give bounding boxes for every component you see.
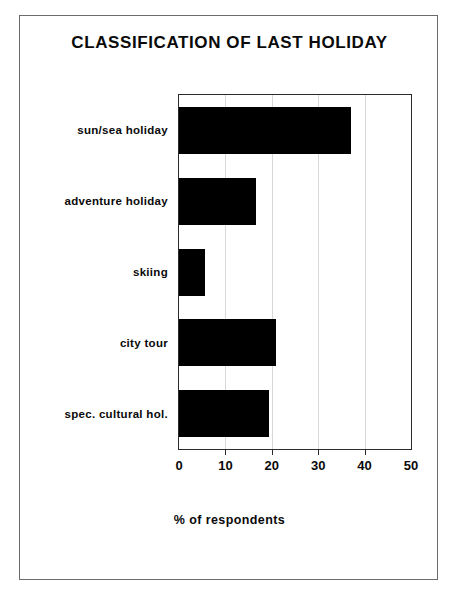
category-label: adventure holiday	[64, 195, 168, 207]
x-tick-40	[365, 449, 366, 455]
category-label: spec. cultural hol.	[65, 408, 168, 420]
x-tick-label-20: 20	[265, 458, 279, 473]
bar-row: city tour	[179, 319, 411, 366]
bar	[179, 319, 276, 366]
x-tick-label-0: 0	[175, 458, 182, 473]
bar-series: sun/sea holidayadventure holidayskiingci…	[179, 95, 411, 449]
bar-row: skiing	[179, 249, 411, 296]
x-tick-label-10: 10	[218, 458, 232, 473]
bar-row: sun/sea holiday	[179, 107, 411, 154]
plot-area: sun/sea holidayadventure holidayskiingci…	[178, 94, 412, 450]
bar	[179, 178, 256, 225]
category-label: sun/sea holiday	[77, 124, 168, 136]
bar	[179, 107, 351, 154]
x-tick-label-40: 40	[357, 458, 371, 473]
x-tick-30	[318, 449, 319, 455]
category-label: skiing	[133, 266, 168, 278]
category-label: city tour	[120, 337, 168, 349]
x-tick-label-50: 50	[404, 458, 418, 473]
bar-row: adventure holiday	[179, 178, 411, 225]
x-axis-title: % of respondents	[20, 513, 439, 527]
bar	[179, 390, 269, 437]
figure-frame: CLASSIFICATION OF LAST HOLIDAY sun/sea h…	[19, 15, 438, 580]
chart-title: CLASSIFICATION OF LAST HOLIDAY	[20, 33, 439, 53]
bar-row: spec. cultural hol.	[179, 390, 411, 437]
x-tick-10	[225, 449, 226, 455]
x-tick-20	[272, 449, 273, 455]
x-tick-label-30: 30	[311, 458, 325, 473]
bar	[179, 249, 205, 296]
